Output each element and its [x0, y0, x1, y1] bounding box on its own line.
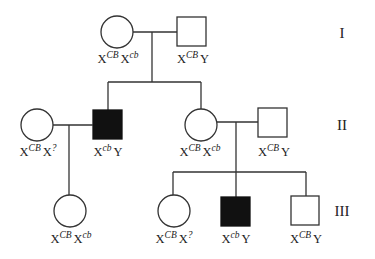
individual-II3-female — [185, 109, 217, 141]
genotype-label-III3: XcbY — [221, 230, 250, 246]
pedigree-chart: XCBXcb XCBY XCBX? XcbY XCBXcb XCBY XCBXc… — [0, 0, 375, 259]
individual-III1-female — [54, 195, 86, 227]
genotype-label-I1: XCBXcb — [97, 50, 138, 66]
individual-II1-female — [21, 109, 53, 141]
individual-III4-male — [291, 196, 319, 225]
genotype-label-II4: XCBY — [258, 143, 290, 159]
genotype-label-III4: XCBY — [290, 230, 322, 246]
genotype-label-I2: XCBY — [177, 50, 209, 66]
individual-I1-female — [101, 16, 133, 48]
individual-III2-female — [158, 195, 190, 227]
genotype-label-II3: XCBXcb — [179, 143, 220, 159]
individual-I2-male — [177, 17, 206, 46]
generation-label-I: I — [340, 25, 345, 41]
generation-label-III: III — [335, 203, 350, 219]
individual-II2-male-affected — [93, 110, 122, 139]
individual-III3-male-affected — [221, 197, 250, 226]
individual-II4-male — [258, 108, 287, 137]
genotype-label-III1: XCBXcb — [50, 230, 91, 246]
generation-label-II: II — [337, 117, 347, 133]
genotype-label-III2: XCBX? — [156, 230, 193, 246]
genotype-label-II1: XCBX? — [20, 143, 57, 159]
genotype-label-II2: XcbY — [93, 143, 122, 159]
